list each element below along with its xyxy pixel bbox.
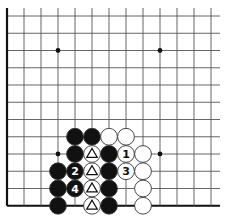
white-stone	[84, 197, 101, 214]
white-stone	[135, 180, 152, 197]
black-stone	[67, 146, 84, 163]
black-stone: 2	[67, 163, 84, 180]
move-number-label: 3	[122, 165, 130, 178]
black-stone	[84, 128, 101, 145]
white-stone: 3	[118, 163, 135, 180]
white-stone	[135, 163, 152, 180]
black-stone	[67, 128, 84, 145]
black-stone	[101, 180, 118, 197]
go-board: 1234	[0, 0, 228, 220]
black-stone	[101, 146, 118, 163]
black-stone	[50, 197, 67, 214]
star-point-icon	[158, 152, 163, 157]
black-stone: 4	[67, 180, 84, 197]
white-stone: 1	[118, 146, 135, 163]
black-stone	[101, 197, 118, 214]
black-stone	[101, 163, 118, 180]
white-stone	[135, 146, 152, 163]
black-stone	[50, 180, 67, 197]
move-number-label: 2	[71, 165, 79, 178]
stones: 1234	[50, 128, 152, 214]
move-number-label: 1	[122, 148, 130, 161]
white-stone	[84, 146, 101, 163]
white-stone	[118, 128, 135, 145]
star-point-icon	[158, 48, 163, 53]
white-stone	[101, 128, 118, 145]
white-stone	[84, 180, 101, 197]
star-point-icon	[56, 48, 61, 53]
black-stone	[50, 163, 67, 180]
move-number-label: 4	[71, 183, 79, 196]
white-stone	[135, 197, 152, 214]
star-point-icon	[56, 152, 61, 157]
white-stone	[84, 163, 101, 180]
